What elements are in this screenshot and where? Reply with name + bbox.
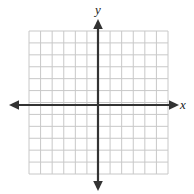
- y-axis-down-arrowhead: [93, 181, 103, 191]
- x-axis-left-arrowhead: [9, 100, 19, 110]
- coordinate-plane-figure: y x: [0, 0, 194, 194]
- y-axis-up-arrowhead: [93, 19, 103, 29]
- axis-lines: [12, 22, 176, 188]
- x-axis-label: x: [176, 98, 190, 111]
- y-axis-label: y: [91, 3, 105, 16]
- graph-canvas: [0, 0, 194, 194]
